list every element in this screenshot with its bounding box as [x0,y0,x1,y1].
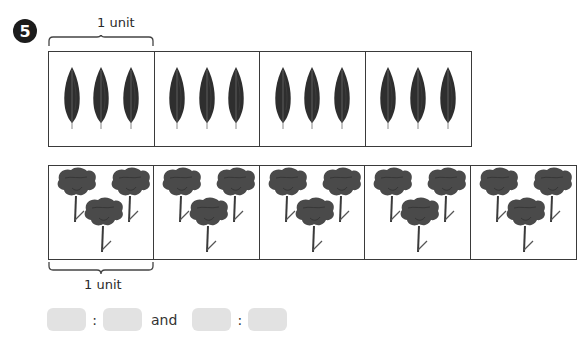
leaf-icon [197,66,217,132]
answer-box-4[interactable] [248,308,287,331]
leaf-icon [226,66,246,132]
leaf-group [260,52,366,146]
leaf-icon [408,66,428,132]
leaf-row [48,51,472,147]
leaf-group [155,52,261,146]
question-number-badge: 5 [13,19,37,43]
flower-group [260,166,365,259]
leaf-icon [91,66,111,132]
answer-box-3[interactable] [192,308,231,331]
flower-icon [187,196,231,258]
leaf-icon [332,66,352,132]
top-unit-label: 1 unit [97,15,135,30]
answer-box-2[interactable] [103,308,142,331]
leaf-icon [121,66,141,132]
ratio-separator: : [86,312,103,328]
flower-icon [504,196,548,258]
leaf-icon [273,66,293,132]
answer-area: : and : [47,308,287,331]
conjunction-label: and [151,312,177,328]
flower-icon [398,196,442,258]
flower-group [471,166,576,259]
leaf-icon [378,66,398,132]
answer-box-1[interactable] [47,308,86,331]
leaf-group [366,52,472,146]
leaf-icon [62,66,82,132]
top-brace-icon [48,35,154,47]
leaf-icon [438,66,458,132]
ratio-separator: : [231,312,248,328]
leaf-icon [302,66,322,132]
leaf-group [49,52,155,146]
flower-row [48,165,577,260]
flower-group [49,166,154,259]
leaf-icon [167,66,187,132]
flower-group [154,166,259,259]
flower-icon [293,196,337,258]
bottom-unit-label: 1 unit [84,277,122,292]
bottom-brace-icon [48,261,154,274]
flower-icon [82,196,126,258]
flower-group [365,166,470,259]
